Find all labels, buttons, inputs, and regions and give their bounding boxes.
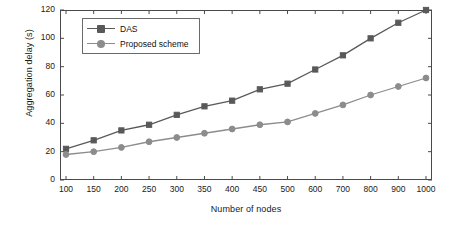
data-point <box>423 7 428 12</box>
data-point <box>91 138 96 143</box>
y-tick-label: 120 <box>31 4 55 14</box>
data-point <box>146 139 152 145</box>
data-point <box>119 128 124 133</box>
x-tick-label: 450 <box>245 184 275 194</box>
data-point <box>202 130 208 136</box>
data-point <box>257 87 262 92</box>
x-tick-label: 400 <box>217 184 247 194</box>
data-point <box>395 84 401 90</box>
data-point <box>423 75 429 81</box>
x-tick-label: 600 <box>300 184 330 194</box>
y-tick-label: 0 <box>31 174 55 184</box>
legend-item-proposed-scheme: Proposed scheme <box>87 37 189 51</box>
data-point <box>396 20 401 25</box>
legend-swatch-proposed-scheme <box>87 38 115 50</box>
x-tick-label: 300 <box>162 184 192 194</box>
y-tick-label: 100 <box>31 32 55 42</box>
y-tick-label: 60 <box>31 89 55 99</box>
data-point <box>202 104 207 109</box>
x-tick-label: 350 <box>189 184 219 194</box>
data-point <box>368 92 374 98</box>
data-point <box>174 112 179 117</box>
legend: DAS Proposed scheme <box>82 18 200 54</box>
legend-swatch-das <box>87 23 115 35</box>
y-axis-title: Aggregation delay (s) <box>24 0 34 153</box>
data-point <box>118 145 124 151</box>
data-point <box>368 36 373 41</box>
data-point <box>285 119 291 125</box>
data-point <box>257 122 263 128</box>
x-tick-label: 500 <box>273 184 303 194</box>
data-point <box>174 135 180 141</box>
x-tick-label: 800 <box>356 184 386 194</box>
data-point <box>146 122 151 127</box>
x-axis-title: Number of nodes <box>60 204 432 214</box>
data-point <box>313 67 318 72</box>
x-tick-label: 1000 <box>411 184 441 194</box>
legend-label-das: DAS <box>120 24 137 34</box>
data-point <box>229 126 235 132</box>
data-point <box>340 53 345 58</box>
x-tick-label: 250 <box>134 184 164 194</box>
y-tick-label: 40 <box>31 117 55 127</box>
y-tick-label: 80 <box>31 61 55 71</box>
data-point <box>340 102 346 108</box>
y-tick-label: 20 <box>31 146 55 156</box>
legend-label-proposed-scheme: Proposed scheme <box>120 39 189 49</box>
x-tick-label: 700 <box>328 184 358 194</box>
x-tick-label: 900 <box>383 184 413 194</box>
data-point <box>63 152 69 158</box>
data-point <box>63 146 68 151</box>
x-tick-label: 200 <box>106 184 136 194</box>
x-tick-label: 100 <box>51 184 81 194</box>
data-point <box>91 149 97 155</box>
data-point <box>230 98 235 103</box>
series-line-proposed-scheme <box>66 78 426 155</box>
data-point <box>312 111 318 117</box>
chart-container: 020406080100120 100150200250300350400450… <box>0 0 451 228</box>
x-tick-label: 150 <box>79 184 109 194</box>
legend-item-das: DAS <box>87 22 137 36</box>
data-point <box>285 81 290 86</box>
